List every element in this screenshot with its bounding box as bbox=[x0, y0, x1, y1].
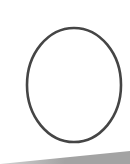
oval-outline-shape bbox=[27, 28, 121, 142]
drawing-canvas bbox=[0, 0, 130, 164]
